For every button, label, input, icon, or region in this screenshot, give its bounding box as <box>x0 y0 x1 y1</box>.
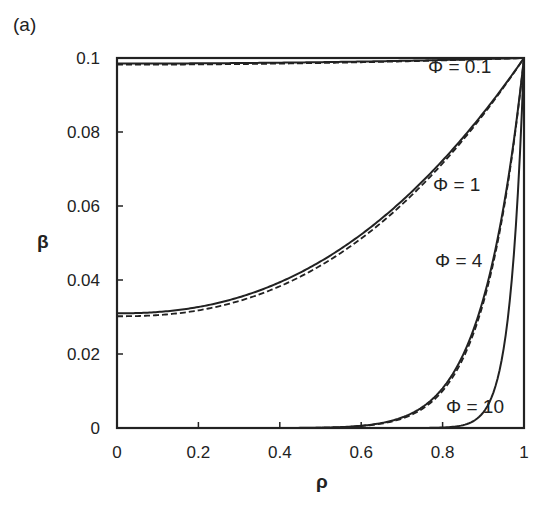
y-tick-label: 0.04 <box>67 271 100 290</box>
chart: (a) 00.020.040.060.080.1 00.20.40.60.81 … <box>0 0 552 519</box>
y-tick-label: 0 <box>91 419 100 438</box>
curve-phi-4-solid <box>117 58 524 428</box>
y-tick-label: 0.08 <box>67 123 100 142</box>
x-tick-label: 0.6 <box>349 443 373 462</box>
x-tick-label: 0.4 <box>268 443 292 462</box>
plot-frame <box>117 58 524 428</box>
curve-phi-4-dashed <box>117 58 524 428</box>
y-axis-label: β <box>37 231 49 252</box>
x-axis-label: ρ <box>316 471 328 492</box>
curves <box>117 58 524 428</box>
annotation-phi-1: Φ = 1 <box>433 174 480 195</box>
y-tick-label: 0.02 <box>67 345 100 364</box>
curve-phi-10-solid <box>117 58 524 428</box>
x-tick-label: 0.2 <box>187 443 211 462</box>
y-tick-label: 0.1 <box>76 49 100 68</box>
x-tick-label: 1 <box>519 443 528 462</box>
y-axis-ticks: 00.020.040.060.080.1 <box>67 49 123 438</box>
y-tick-label: 0.06 <box>67 197 100 216</box>
annotation-phi-4: Φ = 4 <box>435 250 483 271</box>
annotation-phi-10: Φ = 10 <box>446 396 504 417</box>
x-tick-label: 0 <box>112 443 121 462</box>
annotation-phi-0-1: Φ = 0.1 <box>428 56 491 77</box>
panel-label: (a) <box>13 14 36 35</box>
x-tick-label: 0.8 <box>431 443 455 462</box>
